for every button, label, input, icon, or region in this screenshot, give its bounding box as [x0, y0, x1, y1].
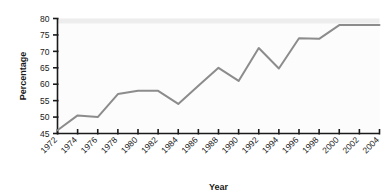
x-tick-label: 1974 — [59, 135, 80, 156]
x-tick-label: 1994 — [260, 135, 281, 156]
plot-background — [58, 19, 380, 134]
y-tick-label: 50 — [40, 112, 50, 122]
x-tick-label: 2000 — [320, 135, 341, 156]
x-tick-label: 2002 — [340, 135, 361, 156]
y-tick-label: 65 — [40, 63, 50, 73]
line-chart-figure: 4550556065707580197219741976197819801982… — [0, 0, 391, 196]
x-tick-label: 1998 — [300, 135, 321, 156]
y-tick-label: 55 — [40, 96, 50, 106]
y-tick-label: 60 — [40, 79, 50, 89]
plot-top-shading — [58, 19, 380, 24]
x-tick-label: 1990 — [220, 135, 241, 156]
y-axis-title: Percentage — [18, 52, 28, 101]
x-tick-label: 1992 — [240, 135, 261, 156]
x-axis-title: Year — [209, 182, 229, 192]
x-tick-label: 1976 — [79, 135, 100, 156]
chart-canvas: 4550556065707580197219741976197819801982… — [0, 0, 391, 196]
x-tick-label: 2004 — [360, 135, 381, 156]
x-tick-label: 1996 — [280, 135, 301, 156]
y-tick-label: 70 — [40, 47, 50, 57]
y-tick-label: 75 — [40, 30, 50, 40]
x-tick-label: 1984 — [159, 135, 180, 156]
x-tick-label: 1986 — [179, 135, 200, 156]
x-tick-label: 1978 — [99, 135, 120, 156]
x-tick-label: 1982 — [139, 135, 160, 156]
y-axis-ticks: 4550556065707580 — [40, 14, 58, 139]
x-tick-label: 1988 — [199, 135, 220, 156]
y-tick-label: 80 — [40, 14, 50, 24]
x-tick-label: 1980 — [119, 135, 140, 156]
